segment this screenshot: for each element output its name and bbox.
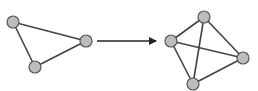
edge-complete-k4-q-s: [171, 41, 193, 84]
edge-triangle-b-c: [35, 41, 86, 67]
node-triangle-c: [29, 61, 41, 73]
edge-complete-k4-p-s: [193, 17, 204, 84]
graph-transformation-diagram: [0, 0, 258, 91]
edge-complete-k4-q-r: [171, 41, 243, 58]
node-complete-k4-p: [198, 11, 210, 23]
edges-layer: [13, 17, 243, 84]
edge-triangle-a-b: [13, 22, 86, 41]
node-triangle-a: [7, 16, 19, 28]
node-complete-k4-s: [187, 78, 199, 90]
node-complete-k4-r: [237, 52, 249, 64]
diagram-svg: [0, 0, 258, 91]
node-triangle-b: [80, 35, 92, 47]
edge-complete-k4-r-s: [193, 58, 243, 84]
edge-complete-k4-p-r: [204, 17, 243, 58]
node-complete-k4-q: [165, 35, 177, 47]
edge-triangle-c-a: [13, 22, 35, 67]
